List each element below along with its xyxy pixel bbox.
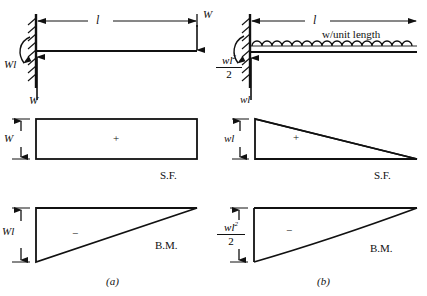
bm-magnitude-label-a: Wl (2, 226, 14, 237)
caption-b: (b) (317, 276, 330, 287)
fixing-moment-denominator-b: 2 (216, 69, 242, 81)
panel-a-bending-moment-diagram (12, 208, 197, 262)
caption-a: (a) (106, 276, 119, 287)
sf-magnitude-label-a: W (4, 133, 13, 144)
sf-hypotenuse-b (255, 119, 417, 159)
sf-diagram-label-a: S.F. (160, 170, 177, 181)
fixing-moment-label-a: Wl (4, 59, 16, 70)
sf-sign-b: + (293, 132, 299, 143)
reaction-label-a: W (29, 95, 38, 106)
span-label-a: l (96, 14, 99, 26)
bm-diagram-label-b: B.M. (370, 243, 393, 254)
fixing-moment-label-b: wl2 2 (216, 54, 242, 81)
span-label-b: l (313, 14, 316, 26)
bm-sign-b: − (286, 225, 292, 236)
bm-sign-a: − (72, 228, 78, 239)
bm-triangle-a (36, 208, 197, 262)
panel-a-shear-force-diagram (12, 119, 197, 159)
point-load-label-a: W (203, 9, 212, 20)
reaction-label-b: wl (240, 94, 250, 105)
fixing-moment-exponent-b: 2 (232, 53, 236, 61)
bm-magnitude-exponent-b: 2 (234, 220, 238, 228)
distributed-load-arcs-b (252, 41, 412, 46)
sf-magnitude-label-b: wl (224, 133, 234, 144)
sf-sign-a: + (113, 133, 119, 144)
panel-a-beam-loading (20, 14, 197, 100)
panel-b-beam-loading (234, 14, 417, 100)
sf-diagram-label-b: S.F. (374, 170, 391, 181)
distributed-load-label-b: w/unit length (322, 29, 380, 40)
fixing-moment-numerator-b: wl (222, 54, 232, 66)
bm-diagram-label-a: B.M. (155, 240, 178, 251)
bm-magnitude-numerator-b: wl (224, 221, 234, 233)
bm-magnitude-label-b: wl2 2 (217, 221, 245, 248)
panel-b-shear-force-diagram (232, 119, 417, 159)
bm-magnitude-denominator-b: 2 (217, 236, 245, 248)
beam-diagram-figure (0, 0, 427, 296)
